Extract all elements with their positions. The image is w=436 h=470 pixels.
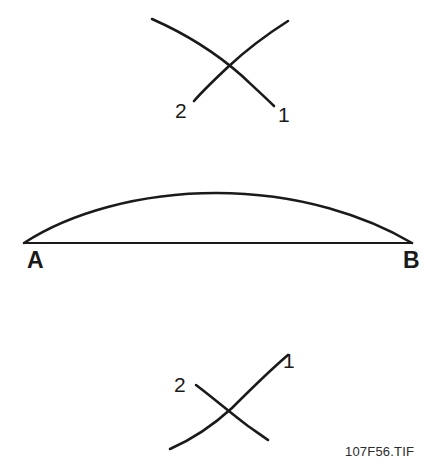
- label-curve-2-upper: 2: [175, 99, 187, 122]
- curve-1-lower: [170, 355, 288, 449]
- figure-caption: 107F56.TIF: [345, 444, 414, 459]
- technical-diagram: 2 1 A B 2 1 107F56.TIF: [0, 0, 436, 470]
- curve-2-upper: [152, 19, 274, 106]
- curve-1-upper: [194, 21, 288, 101]
- label-curve-1-upper: 1: [278, 103, 290, 126]
- panel-lower-crossed-curves: 2 1: [170, 349, 295, 449]
- panel-upper-crossed-curves: 2 1: [152, 19, 290, 126]
- arc-bulge: [24, 193, 412, 243]
- label-point-b: B: [403, 247, 420, 273]
- label-point-a: A: [27, 247, 44, 273]
- panel-arc-over-chord: A B: [24, 193, 420, 273]
- curve-2-lower: [196, 385, 268, 440]
- label-curve-2-lower: 2: [174, 373, 186, 396]
- label-curve-1-lower: 1: [283, 349, 295, 372]
- figure-canvas: 2 1 A B 2 1 107F56.TIF: [0, 0, 436, 470]
